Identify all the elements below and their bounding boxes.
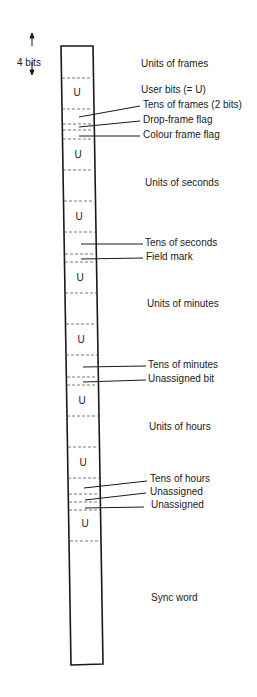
user-bit-marker: U [75, 518, 95, 530]
label-tens-of-hours: Tens of hours [150, 473, 210, 485]
label-tens-of-minutes: Tens of minutes [148, 359, 218, 371]
label-unassigned-1: Unassigned [150, 486, 203, 498]
user-bit-marker: U [70, 272, 90, 284]
label-field-mark: Field mark [146, 251, 193, 263]
label-units-of-hours: Units of hours [149, 421, 211, 433]
label-tens-of-seconds: Tens of seconds [145, 237, 217, 249]
label-units-of-seconds: Units of seconds [145, 177, 219, 189]
user-bit-marker: U [67, 87, 87, 99]
label-unassigned-2: Unassigned [151, 499, 204, 511]
user-bit-marker: U [71, 334, 91, 346]
user-bit-marker: U [69, 211, 89, 223]
label-units-of-frames: Units of frames [141, 58, 208, 70]
label-units-of-minutes: Units of minutes [147, 298, 219, 310]
user-bit-marker: U [73, 457, 93, 469]
scale-label: 4 bits [17, 57, 41, 69]
user-bit-marker: U [72, 395, 92, 407]
label-sync-word: Sync word [151, 592, 198, 604]
label-drop-frame-flag: Drop-frame flag [143, 114, 212, 126]
label-user-bits: User bits (= U) [141, 84, 206, 96]
label-colour-frame-flag: Colour frame flag [143, 129, 220, 141]
bit-word-frame [61, 46, 103, 665]
label-unassigned-bit: Unassigned bit [148, 373, 214, 385]
label-tens-of-frames: Tens of frames (2 bits) [143, 99, 242, 111]
user-bit-marker: U [68, 149, 88, 161]
leader-lines [79, 106, 147, 508]
